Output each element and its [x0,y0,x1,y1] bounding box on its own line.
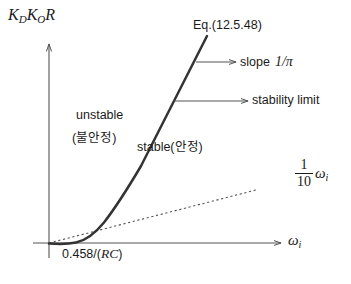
tenth-omega-symbol: ωi [313,165,328,183]
tenth-omega-char: ω [315,165,326,181]
y-axis-label-sub-d: D [19,13,27,25]
stable-region-label: stable(안정) [137,140,203,154]
tenth-fraction: 110 [295,158,313,189]
threshold-close-paren: ) [118,247,122,261]
unstable-region-label: unstable [76,108,123,122]
slope-annotation-label: slope1/π [240,54,293,70]
x-axis-label-sub-i: i [299,239,302,250]
tenth-omega-reference-line [49,190,256,243]
slope-value: 1/π [270,54,293,69]
slope-text: slope [240,55,270,69]
threshold-value: 0.458/( [62,247,101,261]
tenth-numerator: 1 [299,158,310,173]
y-axis-label-kd: K [8,6,19,23]
tenth-denominator: 10 [295,174,313,189]
threshold-rc: RC [101,246,118,261]
stability-limit-label: stability limit [252,93,319,107]
tenth-omega-label: 110ωi [295,158,328,189]
unstable-region-label-korean: (불안정) [72,131,116,145]
tenth-omega-sub: i [326,171,329,182]
stability-limit-figure: KDKOR ωi Eq.(12.5.48) slope1/π stability… [0,0,351,284]
equation-reference-label: Eq.(12.5.48) [193,18,262,32]
x-axis-label: ωi [288,232,301,250]
y-axis-label-ko: K [27,6,38,23]
x-axis-label-omega: ω [288,232,299,248]
y-axis-label-r: R [45,6,55,23]
y-axis-label: KDKOR [8,6,55,25]
threshold-tick-label: 0.458/(RC) [62,246,122,262]
